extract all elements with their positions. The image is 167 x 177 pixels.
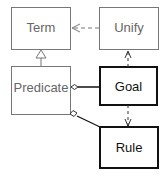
open-arrowhead-icon: [125, 119, 131, 126]
hollow-diamond-icon: [71, 85, 78, 90]
class-term-label: Term: [27, 20, 56, 35]
dependency-unify-term: [72, 24, 99, 32]
hollow-diamond-icon: [70, 111, 77, 117]
aggregation-predicate-goal: [71, 85, 100, 90]
class-goal[interactable]: Goal: [100, 67, 157, 105]
class-predicate[interactable]: Predicate: [12, 67, 71, 115]
dependency-goal-rule: [125, 105, 131, 126]
aggregation-predicate-rule: [70, 111, 100, 128]
class-term[interactable]: Term: [12, 8, 71, 50]
class-unify[interactable]: Unify: [100, 8, 159, 50]
class-rule[interactable]: Rule: [100, 127, 158, 168]
hollow-triangle-icon: [36, 50, 46, 58]
uml-diagram: Term Unify Predicate Goal Rule: [0, 0, 167, 177]
generalization-predicate-term: [36, 50, 46, 66]
class-rule-label: Rule: [116, 140, 143, 155]
class-goal-label: Goal: [115, 79, 143, 94]
dependency-goal-unify: [125, 51, 131, 67]
class-predicate-label: Predicate: [14, 80, 69, 95]
class-unify-label: Unify: [114, 20, 144, 35]
